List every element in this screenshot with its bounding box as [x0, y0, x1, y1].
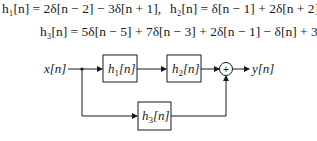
summing-junction: +	[220, 63, 233, 76]
block-h1: h1[n]	[103, 55, 137, 82]
input-label: x[n]	[43, 61, 66, 76]
svg-text:h3[n]: h3[n]	[142, 108, 170, 125]
block-diagram: x[n] h1[n] h2[n] + y[n] h3[n]	[0, 0, 317, 141]
block-h2: h2[n]	[167, 55, 201, 82]
svg-text:h1[n]: h1[n]	[108, 61, 136, 78]
block-h3: h3[n]	[138, 102, 171, 130]
svg-text:h2[n]: h2[n]	[172, 61, 200, 78]
output-label: y[n]	[250, 61, 274, 76]
svg-text:+: +	[223, 64, 229, 75]
